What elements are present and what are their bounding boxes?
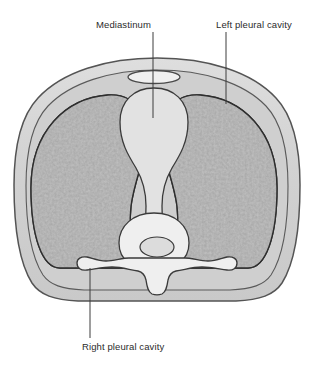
sternum (128, 71, 180, 84)
thorax-cross-section-figure: Mediastinum Left pleural cavity Right pl… (0, 0, 314, 366)
label-mediastinum: Mediastinum (96, 19, 151, 30)
thorax-diagram-svg (0, 0, 314, 366)
spinal-canal (140, 237, 174, 257)
label-right-pleural-cavity: Right pleural cavity (82, 341, 164, 352)
label-left-pleural-cavity: Left pleural cavity (216, 19, 292, 30)
